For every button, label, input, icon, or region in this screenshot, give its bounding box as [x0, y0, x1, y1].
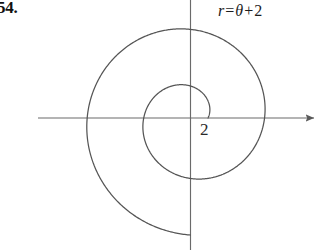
equation-equals: =	[224, 2, 235, 19]
polar-plot-canvas	[0, 0, 326, 250]
equation-theta: θ	[235, 2, 243, 19]
problem-number: 54.	[0, 0, 18, 18]
equation-label: r=θ+2	[218, 1, 262, 21]
radius-label: 2	[200, 120, 209, 139]
equation-plus: +	[243, 2, 254, 19]
equation-constant: 2	[254, 2, 262, 19]
spiral-curve	[87, 29, 265, 235]
polar-graph-figure: 54. r=θ+2 2	[0, 0, 326, 250]
